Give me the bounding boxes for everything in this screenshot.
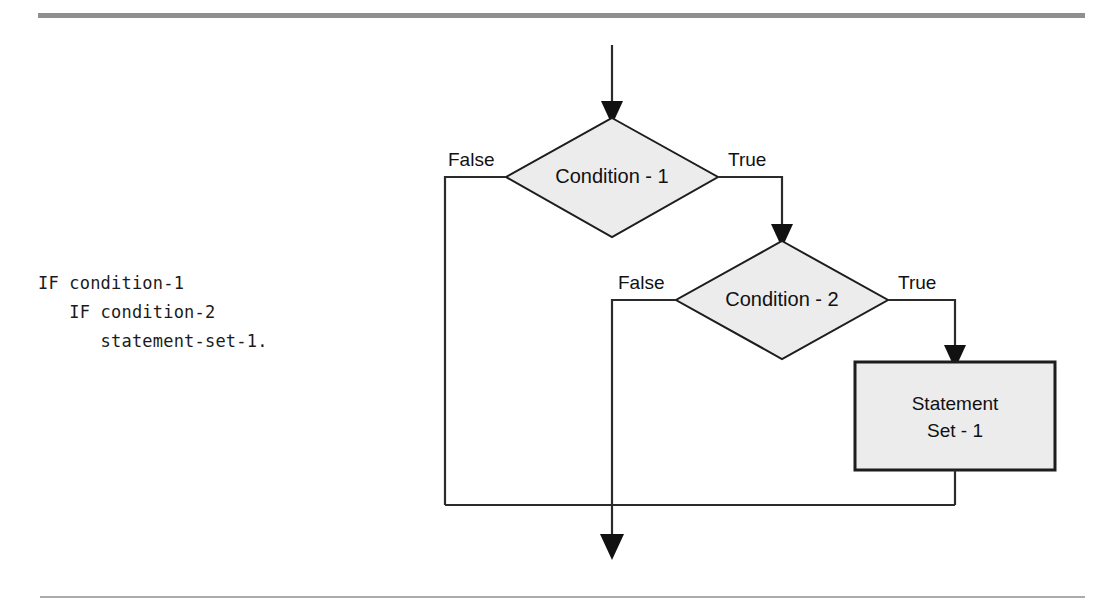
bottom-horizontal-rule [40, 596, 1085, 598]
edge-label-true-2: True [898, 272, 936, 293]
edge-label-false-1: False [448, 149, 494, 170]
exit-arrow [600, 505, 624, 560]
process-statement-set-1-label-line1: Statement [912, 393, 999, 414]
decision-condition-1-label: Condition - 1 [555, 165, 668, 187]
flowchart-diagram: Condition - 1 False True Condition - 2 F… [0, 0, 1111, 614]
decision-condition-1[interactable]: Condition - 1 [506, 118, 718, 237]
decision-condition-2-label: Condition - 2 [725, 288, 838, 310]
flowchart-page: IF condition-1 IF condition-2 statement-… [0, 0, 1111, 614]
decision-condition-2[interactable]: Condition - 2 [676, 241, 888, 359]
process-statement-set-1-label-line2: Set - 1 [927, 420, 983, 441]
edge-label-true-1: True [728, 149, 766, 170]
edge-false-2 [612, 300, 676, 505]
process-statement-set-1[interactable]: Statement Set - 1 [855, 362, 1055, 470]
edge-true-1 [718, 177, 793, 248]
edge-true-2 [888, 300, 966, 369]
edge-label-false-2: False [618, 272, 664, 293]
entry-arrow [601, 45, 623, 125]
edge-false-1 [445, 177, 506, 505]
